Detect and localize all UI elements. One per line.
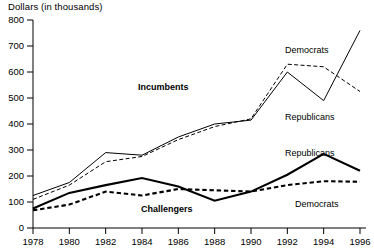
- x-axis-tick-label: 1992: [267, 236, 307, 247]
- x-axis-tick-label: 1978: [13, 236, 53, 247]
- x-axis-tick-label: 1982: [86, 236, 126, 247]
- y-axis-tick-label: 700: [0, 40, 24, 51]
- y-axis-tick-label: 600: [0, 66, 24, 77]
- group-label-challengers: Challengers: [141, 204, 193, 214]
- x-axis-ticks: [33, 228, 360, 234]
- series-label-challenger-democrats: Democrats: [295, 199, 339, 209]
- y-axis-tick-label: 500: [0, 92, 24, 103]
- y-axis-tick-label: 800: [0, 14, 24, 25]
- x-axis-tick-label: 1996: [340, 236, 374, 247]
- series-label-incumbent-democrats: Democrats: [285, 45, 329, 55]
- y-axis-tick-label: 300: [0, 144, 24, 155]
- y-axis-tick-label: 100: [0, 196, 24, 207]
- group-label-incumbents: Incumbents: [138, 82, 189, 92]
- y-axis-tick-label: 0: [0, 222, 24, 233]
- x-axis-tick-label: 1990: [231, 236, 271, 247]
- y-axis-tick-label: 200: [0, 170, 24, 181]
- y-axis-tick-label: 400: [0, 118, 24, 129]
- x-axis-tick-label: 1984: [122, 236, 162, 247]
- series-label-incumbent-republicans: Republicans: [285, 112, 335, 122]
- x-axis-tick-label: 1994: [304, 236, 344, 247]
- series-line-incumbents-democrats: [33, 64, 360, 199]
- line-chart: Dollars (in thousands) 01002003004005006…: [0, 0, 374, 249]
- x-axis-tick-label: 1988: [195, 236, 235, 247]
- x-axis-tick-label: 1980: [49, 236, 89, 247]
- y-axis-ticks: [27, 20, 33, 228]
- x-axis-tick-label: 1986: [158, 236, 198, 247]
- series-label-challenger-republicans: Republicans: [285, 148, 335, 158]
